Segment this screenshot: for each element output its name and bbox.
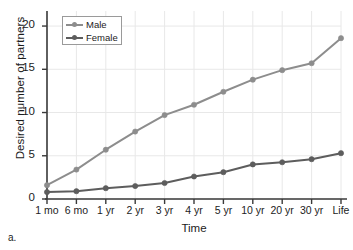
y-tick-label: 10: [9, 105, 35, 117]
chart-legend: Male Female: [62, 16, 122, 45]
y-tick-label: 5: [9, 148, 35, 160]
figure-caption-label: a.: [8, 232, 16, 243]
legend-entry-male: Male: [66, 18, 107, 31]
legend-label-female: Female: [86, 33, 118, 43]
data-point-male: [338, 36, 343, 41]
legend-line-marker-icon: [66, 33, 83, 42]
x-tick-label: Life: [319, 204, 353, 216]
legend-line-marker-icon: [66, 20, 83, 29]
data-point-male: [221, 89, 226, 94]
y-tick-label: 0: [9, 191, 35, 203]
data-point-female: [191, 174, 196, 179]
data-point-female: [162, 180, 167, 185]
data-point-male: [74, 167, 79, 172]
data-point-female: [338, 151, 343, 156]
legend-label-male: Male: [86, 20, 107, 30]
data-point-female: [250, 162, 255, 167]
x-axis-title: Time: [47, 222, 341, 234]
data-point-male: [44, 183, 49, 188]
data-point-female: [44, 189, 49, 194]
figure-container: Desired number of partners 05101520 1 mo…: [0, 0, 353, 250]
data-point-male: [133, 129, 138, 134]
y-tick-label: 15: [9, 61, 35, 73]
data-point-male: [309, 61, 314, 66]
data-point-female: [133, 183, 138, 188]
data-point-male: [250, 77, 255, 82]
data-point-female: [309, 157, 314, 162]
data-point-male: [103, 147, 108, 152]
data-point-male: [280, 68, 285, 73]
data-point-female: [103, 186, 108, 191]
legend-entry-female: Female: [66, 31, 118, 44]
data-point-female: [221, 170, 226, 175]
data-point-male: [162, 113, 167, 118]
data-point-female: [280, 160, 285, 165]
data-point-male: [191, 102, 196, 107]
y-tick-label: 20: [9, 18, 35, 30]
data-point-female: [74, 189, 79, 194]
